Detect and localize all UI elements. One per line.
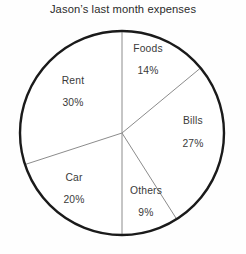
slice-label-car: Car [65, 172, 82, 183]
slice-value-rent: 30% [62, 97, 83, 108]
slice-label-others: Others [130, 185, 162, 196]
slice-value-foods: 14% [137, 65, 158, 76]
slice-label-bills: Bills [183, 115, 203, 126]
pie-chart-canvas [0, 0, 246, 254]
slice-label-foods: Foods [133, 43, 163, 54]
slice-label-rent: Rent [62, 75, 85, 86]
slice-value-bills: 27% [182, 138, 203, 149]
slice-value-others: 9% [138, 207, 153, 218]
pie-chart-figure: Jason’s last month expenses Foods14%Bill… [0, 0, 246, 254]
slice-value-car: 20% [63, 194, 84, 205]
